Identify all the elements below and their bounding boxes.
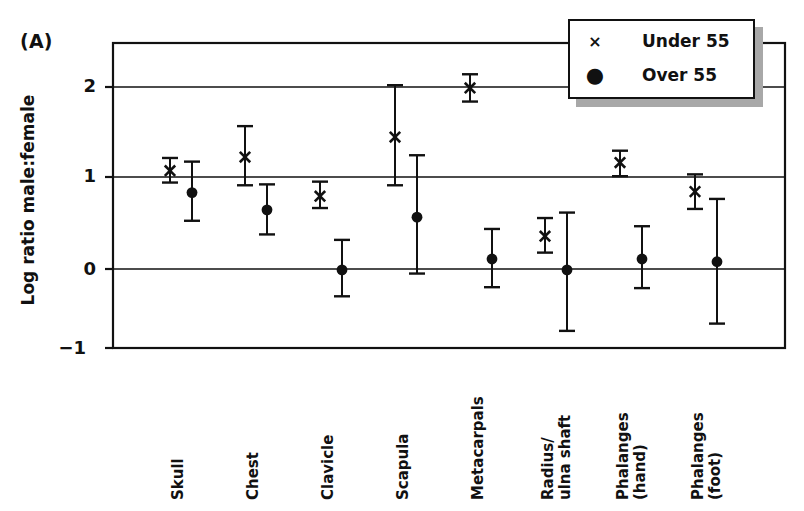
x-tick-label-metacarpals: Metacarpals [470,396,487,500]
legend-item-under-55: × Under 55 [578,31,730,51]
data-point-over-55-2 [334,240,350,296]
data-point-over-55-7 [709,199,725,324]
data-point-under-55-5 [537,218,553,253]
data-point-under-55-0 [162,158,178,183]
figure-panel-a: (A) Log ratio male:female 2 1 0 −1 Skull… [0,0,804,511]
legend-label-under-55: Under 55 [642,31,730,51]
x-tick-label-skull: Skull [170,458,187,500]
legend-box: × Under 55 ● Over 55 [568,19,755,99]
data-point-under-55-3 [387,85,403,185]
legend-item-over-55: ● Over 55 [578,65,717,85]
x-tick-text: Metacarpals [469,396,487,500]
x-tick-text: Phalanges(foot) [689,412,724,500]
x-tick-label-clavicle: Clavicle [320,435,337,500]
x-tick-label-chest: Chest [245,452,262,500]
legend-label-over-55: Over 55 [642,65,717,85]
data-point-over-55-5 [559,213,575,331]
data-point-under-55-7 [687,174,703,209]
data-point-over-55-1 [259,184,275,234]
data-point-over-55-6 [634,226,650,288]
filled-circle-marker-icon: ● [578,68,612,82]
x-tick-label-radius-ulna-shaft: Radius/ulna shaft [540,415,574,500]
x-tick-text: Skull [169,458,187,500]
x-tick-text: Phalanges(hand) [614,412,649,500]
x-tick-text: Clavicle [319,435,337,500]
x-tick-text: Radius/ulna shaft [539,415,574,500]
data-point-under-55-6 [612,151,628,176]
data-point-under-55-2 [312,182,328,208]
data-point-over-55-0 [184,162,200,221]
data-point-under-55-4 [462,74,478,101]
x-tick-label-phalanges-hand: Phalanges(hand) [615,412,649,500]
x-tick-label-phalanges-foot: Phalanges(foot) [690,412,724,500]
data-series-layer [162,74,725,331]
x-tick-text: Chest [244,452,262,500]
data-point-over-55-4 [484,229,500,287]
x-marker-icon: × [578,32,612,51]
x-tick-text: Scapula [394,434,412,501]
data-point-over-55-3 [409,155,425,273]
x-tick-label-scapula: Scapula [395,434,412,501]
